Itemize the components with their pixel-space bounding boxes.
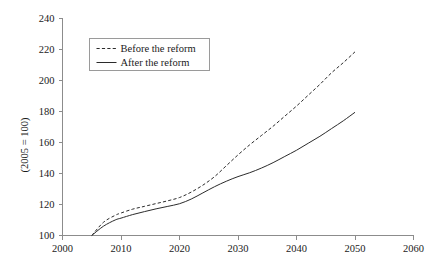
x-tick-label: 2050 <box>345 243 366 254</box>
x-tick-label: 2030 <box>228 243 249 254</box>
x-tick-label: 2040 <box>286 243 307 254</box>
chart-container: 100120140160180200220240 200020102020203… <box>0 0 434 268</box>
y-tick-label: 120 <box>39 199 55 210</box>
y-axis-title-text: (2005 = 100) <box>19 117 31 172</box>
series-line-1 <box>92 52 355 236</box>
x-tick-label: 2000 <box>52 243 73 254</box>
legend-label-1: Before the reform <box>121 43 196 54</box>
line-chart-figure: 100120140160180200220240 200020102020203… <box>0 0 434 268</box>
y-tick-label: 240 <box>39 13 55 24</box>
y-tick-label: 100 <box>39 230 55 241</box>
y-tick-label: 220 <box>39 44 55 55</box>
x-tick-label: 2060 <box>403 243 424 254</box>
legend-label-2: After the reform <box>121 57 190 68</box>
x-tick-label: 2020 <box>169 243 190 254</box>
y-tick-label: 200 <box>39 75 55 86</box>
x-tick-label: 2010 <box>111 243 132 254</box>
series-line-2 <box>92 112 355 235</box>
y-tick-label: 140 <box>39 168 55 179</box>
x-tick-labels: 2000201020202030204020502060 <box>52 243 424 254</box>
y-tick-label: 180 <box>39 106 55 117</box>
chart-legend: Before the reformAfter the reform <box>90 39 210 71</box>
y-tick-labels: 100120140160180200220240 <box>39 13 55 241</box>
y-axis-title: (2005 = 100) <box>19 117 31 172</box>
data-series-layer <box>92 52 355 236</box>
y-tick-label: 160 <box>39 137 55 148</box>
